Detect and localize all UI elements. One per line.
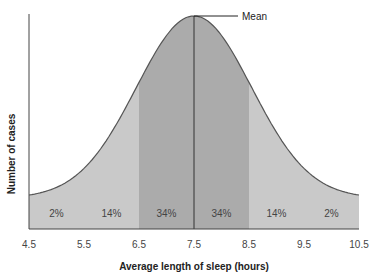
region-1 xyxy=(84,0,139,229)
region-3 xyxy=(194,0,249,229)
percent-label: 14% xyxy=(101,208,121,219)
percent-label: 34% xyxy=(211,208,231,219)
bell-curve-chart: Mean 2%14%34%34%14%2% 4.55.56.57.58.59.5… xyxy=(0,0,372,274)
region-5 xyxy=(304,0,359,229)
x-axis-label: Average length of sleep (hours) xyxy=(119,261,269,272)
x-tick-label: 5.5 xyxy=(77,239,91,250)
percent-label: 2% xyxy=(324,208,339,219)
percent-label: 14% xyxy=(266,208,286,219)
region-4 xyxy=(249,0,304,229)
x-tick-label: 7.5 xyxy=(187,239,201,250)
percent-label: 2% xyxy=(49,208,64,219)
x-tick-label: 4.5 xyxy=(22,239,36,250)
x-tick-label: 10.5 xyxy=(349,239,369,250)
region-0 xyxy=(29,0,84,229)
y-axis-label: Number of cases xyxy=(6,113,17,194)
region-2 xyxy=(139,0,194,229)
mean-label: Mean xyxy=(242,11,267,22)
x-tick-labels: 4.55.56.57.58.59.510.5 xyxy=(22,239,369,250)
x-tick-label: 8.5 xyxy=(242,239,256,250)
percent-label: 34% xyxy=(156,208,176,219)
x-tick-label: 6.5 xyxy=(132,239,146,250)
x-tick-label: 9.5 xyxy=(297,239,311,250)
